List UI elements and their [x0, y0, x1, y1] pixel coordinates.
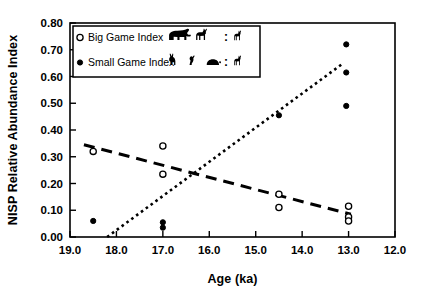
y-tick-label: 0.20: [41, 178, 63, 190]
chart-canvas: 19.018.017.016.015.014.013.012.00.000.10…: [0, 0, 421, 290]
x-tick-label: 16.0: [198, 244, 220, 256]
legend-label-small-game: Small Game Index: [88, 56, 175, 68]
x-tick-label: 17.0: [152, 244, 174, 256]
x-tick-label: 12.0: [384, 244, 406, 256]
small-game-data-point: [276, 113, 281, 118]
big-game-data-point: [160, 171, 166, 177]
y-tick-label: 0.80: [41, 17, 63, 29]
legend-separator: :: [224, 55, 228, 69]
small-game-data-point: [344, 70, 349, 75]
big-game-data-point: [345, 218, 351, 224]
y-tick-label: 0.70: [41, 44, 63, 56]
y-tick-label: 0.10: [41, 204, 63, 216]
y-tick-label: 0.00: [41, 231, 63, 243]
x-axis-title: Age (ka): [207, 272, 257, 286]
small-game-data-point: [160, 225, 165, 230]
big-game-data-point: [276, 191, 282, 197]
x-tick-label: 14.0: [291, 244, 313, 256]
y-axis-title: NISP Relative Abundance Index: [6, 35, 20, 225]
legend-marker-small-game: [77, 60, 82, 65]
scatter-plot-figure: 19.018.017.016.015.014.013.012.00.000.10…: [0, 0, 421, 290]
small-game-data-point: [344, 42, 349, 47]
x-tick-label: 19.0: [59, 244, 81, 256]
small-game-data-point: [160, 220, 165, 225]
y-tick-label: 0.50: [41, 97, 63, 109]
x-tick-label: 18.0: [105, 244, 127, 256]
y-tick-label: 0.60: [41, 71, 63, 83]
x-tick-label: 15.0: [245, 244, 267, 256]
legend-separator: :: [224, 30, 228, 44]
legend-marker-big-game: [77, 34, 83, 40]
big-game-data-point: [345, 203, 351, 209]
small-game-data-point: [91, 218, 96, 223]
big-game-data-point: [160, 143, 166, 149]
legend-label-big-game: Big Game Index: [88, 31, 164, 43]
x-tick-label: 13.0: [337, 244, 359, 256]
y-tick-label: 0.30: [41, 151, 63, 163]
y-tick-label: 0.40: [41, 124, 63, 136]
big-game-data-point: [276, 204, 282, 210]
big-game-data-point: [90, 148, 96, 154]
small-game-data-point: [344, 103, 349, 108]
